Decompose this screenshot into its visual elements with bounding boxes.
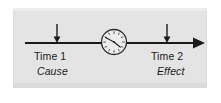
time-axis-arrowhead-icon — [193, 38, 205, 49]
label-cause: Cause — [37, 66, 68, 77]
marker-tick-time1 — [54, 24, 61, 43]
figure-canvas: Time 1 Cause Time 2 Effect — [0, 0, 221, 103]
clock-center-pin — [113, 41, 115, 43]
label-time-2: Time 2 — [151, 51, 183, 62]
label-time-1: Time 1 — [34, 51, 66, 62]
clock-icon — [102, 30, 127, 55]
marker-tick-time2 — [164, 24, 171, 43]
label-effect: Effect — [157, 66, 184, 77]
